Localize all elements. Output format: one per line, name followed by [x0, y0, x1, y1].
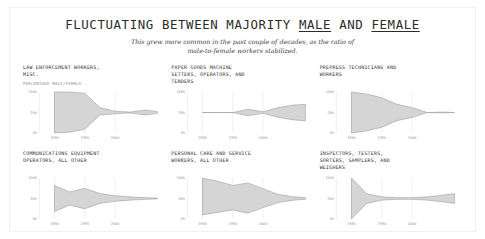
chart-axis-note: . [320, 81, 462, 88]
chart-x-tick-label: 1990 [81, 136, 90, 140]
chart-panel-title: PAPER GOODS MACHINE SETTERS, OPERATORS, … [171, 64, 313, 80]
chart-y-tick-label: 100% [177, 91, 186, 95]
chart-panel: LAW ENFORCEMENT WORKERS, MISC.PERCENTAGE… [23, 64, 165, 145]
page-title-and: AND [331, 17, 371, 32]
chart-x-tick-label: 2000 [111, 222, 120, 226]
chart-x-tick-label: 2000 [407, 222, 416, 226]
chart-panel-title: INSPECTORS, TESTERS, SORTERS, SAMPLERS, … [320, 150, 462, 166]
chart-panel: PERSONAL CARE AND SERVICE WORKERS, ALL O… [171, 150, 313, 231]
chart-y-tick-label: 100% [28, 177, 37, 181]
chart-band-area [351, 92, 454, 133]
chart-panel: PREPRESS TECHNICIANS AND WORKERS.100%50%… [320, 64, 462, 145]
chart-x-tick-label: 1990 [229, 136, 238, 140]
chart-x-tick-label: 1980 [50, 222, 59, 226]
chart-x-tick-label: 1980 [199, 222, 208, 226]
page-title: FLUCTUATING BETWEEN MAJORITY MALE AND FE… [23, 17, 462, 32]
chart-y-tick-label: 100% [325, 91, 334, 95]
chart-x-tick-label: 1990 [377, 136, 386, 140]
chart-x-tick-label: 2000 [259, 222, 268, 226]
chart-y-tick-label: 50% [327, 197, 334, 201]
chart-y-tick-label: 0% [329, 218, 334, 222]
chart-y-tick-label: 50% [31, 111, 38, 115]
chart-panel: PAPER GOODS MACHINE SETTERS, OPERATORS, … [171, 64, 313, 145]
page-content: FLUCTUATING BETWEEN MAJORITY MALE AND FE… [9, 7, 476, 232]
page-title-female: FEMALE [371, 17, 419, 32]
chart-y-tick-label: 0% [181, 218, 186, 222]
chart-plot-area: 100%50%0%198019902000 [23, 174, 165, 230]
chart-x-tick-label: 1980 [347, 222, 356, 226]
page-title-lead: FLUCTUATING BETWEEN MAJORITY [65, 17, 299, 32]
chart-plot-area: 100%50%0%198019902000 [171, 88, 313, 144]
chart-x-tick-label: 1980 [199, 136, 208, 140]
page-subtitle: This grew more common in the past couple… [127, 37, 359, 55]
chart-y-tick-label: 50% [31, 197, 38, 201]
chart-plot-area: 100%50%0%198019902000 [320, 88, 462, 144]
chart-y-tick-label: 0% [33, 218, 38, 222]
chart-y-tick-label: 50% [179, 111, 186, 115]
chart-x-tick-label: 2000 [259, 136, 268, 140]
chart-y-tick-label: 50% [179, 197, 186, 201]
page-title-male: MALE [299, 17, 331, 32]
chart-y-tick-label: 0% [329, 132, 334, 136]
chart-plot-area: 100%50%0%198019902000 [320, 174, 462, 230]
chart-y-tick-label: 100% [28, 91, 37, 95]
chart-x-tick-label: 1980 [347, 136, 356, 140]
chart-panel-title: COMMUNICATIONS EQUIPMENT OPERATORS, ALL … [23, 150, 165, 166]
chart-x-tick-label: 2000 [407, 136, 416, 140]
chart-panel-title: PERSONAL CARE AND SERVICE WORKERS, ALL O… [171, 150, 313, 166]
chart-x-tick-label: 1980 [50, 136, 59, 140]
chart-x-tick-label: 2000 [111, 136, 120, 140]
chart-axis-note: . [171, 167, 313, 174]
chart-band-area [54, 186, 157, 212]
chart-band-area [203, 105, 306, 121]
chart-x-tick-label: 1990 [377, 222, 386, 226]
chart-band-area [351, 178, 454, 219]
chart-plot-area: 100%50%0%198019902000 [23, 88, 165, 144]
chart-x-tick-label: 1990 [229, 222, 238, 226]
chart-y-tick-label: 50% [327, 111, 334, 115]
chart-y-tick-label: 0% [33, 132, 38, 136]
chart-band-area [203, 178, 306, 215]
chart-plot-area: 100%50%0%198019902000 [171, 174, 313, 230]
small-multiples-grid: LAW ENFORCEMENT WORKERS, MISC.PERCENTAGE… [23, 64, 462, 231]
chart-axis-note: PERCENTAGE MALE/FEMALE [23, 81, 165, 88]
chart-y-tick-label: 0% [181, 132, 186, 136]
chart-band-area [54, 92, 157, 133]
chart-x-tick-label: 1990 [81, 222, 90, 226]
chart-panel-title: PREPRESS TECHNICIANS AND WORKERS [320, 64, 462, 80]
chart-panel-title: LAW ENFORCEMENT WORKERS, MISC. [23, 64, 165, 80]
chart-axis-note: . [23, 167, 165, 174]
infographic-page: FLUCTUATING BETWEEN MAJORITY MALE AND FE… [0, 0, 485, 239]
chart-y-tick-label: 100% [325, 177, 334, 181]
chart-y-tick-label: 100% [177, 177, 186, 181]
chart-panel: INSPECTORS, TESTERS, SORTERS, SAMPLERS, … [320, 150, 462, 231]
chart-panel: COMMUNICATIONS EQUIPMENT OPERATORS, ALL … [23, 150, 165, 231]
